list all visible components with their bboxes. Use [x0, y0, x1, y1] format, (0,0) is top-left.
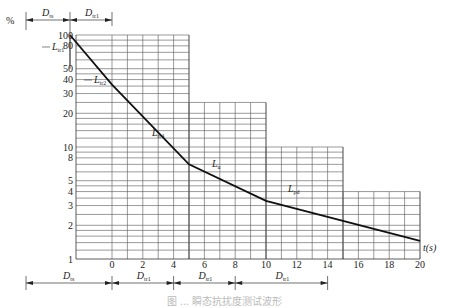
svg-text:50: 50 [63, 63, 73, 74]
svg-text:30: 30 [63, 88, 73, 99]
svg-text:20: 20 [415, 259, 425, 270]
grid-lines [70, 35, 420, 259]
svg-text:18: 18 [384, 259, 394, 270]
svg-text:Dtr1: Dtr1 [274, 270, 289, 282]
figure-caption: 图 ... 瞬态抗扰度测试波形 [0, 293, 449, 308]
svg-text:2: 2 [68, 220, 73, 231]
x-axis-tick-labels: 02468101214161820 [110, 259, 426, 270]
svg-text:20: 20 [63, 108, 73, 119]
svg-text:10: 10 [261, 259, 271, 270]
svg-text:8: 8 [68, 152, 73, 163]
y-axis-tick-labels: 123458102030405080100 [58, 30, 73, 265]
svg-text:10: 10 [63, 142, 73, 153]
svg-text:Dtr1: Dtr1 [136, 270, 151, 282]
svg-text:4: 4 [68, 186, 73, 197]
svg-text:1: 1 [68, 254, 73, 265]
svg-text:4: 4 [171, 259, 176, 270]
svg-text:Dtr1: Dtr1 [197, 270, 212, 282]
svg-text:0: 0 [110, 259, 115, 270]
x-axis-unit: t(s) [423, 242, 437, 254]
svg-text:Lpd: Lpd [287, 183, 300, 195]
svg-text:40: 40 [63, 74, 73, 85]
svg-text:2: 2 [140, 259, 145, 270]
svg-text:14: 14 [323, 259, 333, 270]
svg-text:5: 5 [68, 175, 73, 186]
y-axis-unit: % [6, 15, 14, 26]
svg-text:3: 3 [68, 200, 73, 211]
svg-text:Dts: Dts [41, 7, 54, 19]
svg-text:12: 12 [292, 259, 302, 270]
svg-text:Ltr4: Ltr4 [151, 127, 164, 139]
svg-text:80: 80 [63, 40, 73, 51]
svg-text:Dtr1: Dtr1 [84, 7, 99, 19]
svg-text:Lu: Lu [211, 158, 221, 170]
svg-text:6: 6 [202, 259, 207, 270]
svg-text:Dts: Dts [62, 270, 75, 282]
svg-text:16: 16 [353, 259, 363, 270]
svg-text:8: 8 [233, 259, 238, 270]
